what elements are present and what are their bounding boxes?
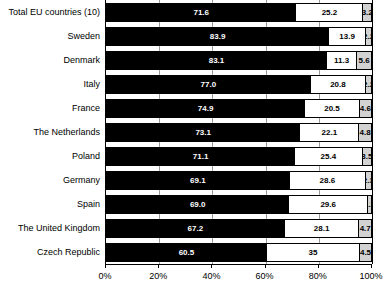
bar-segment-3: 4.5 <box>360 243 372 262</box>
bar-value-label: 13.9 <box>339 32 355 41</box>
bar-value-label: 71.1 <box>193 152 209 161</box>
axis-tick-label: 20% <box>138 271 178 281</box>
category-label: Total EU countries (10) <box>0 7 100 17</box>
bar-value-label: 1.5 <box>368 200 372 209</box>
bar-row: 77.020.82.2 <box>106 75 372 94</box>
bar-segment-2: 11.3 <box>327 51 357 70</box>
bar-value-label: 28.6 <box>320 176 336 185</box>
bar-value-label: 20.8 <box>330 80 346 89</box>
value-axis: 0%20%40%60%80%100% <box>105 264 373 292</box>
bar-row: 73.122.14.8 <box>106 123 372 142</box>
bar-value-label: 35 <box>309 248 318 257</box>
bar-value-label: 4.5 <box>360 248 371 257</box>
bar-row: 60.5354.5 <box>106 243 372 262</box>
bar-value-label: 83.9 <box>210 32 226 41</box>
bar-value-label: 22.1 <box>322 128 338 137</box>
category-label: France <box>0 103 100 113</box>
plot-area: 71.625.23.283.913.92.283.111.35.677.020.… <box>105 0 373 264</box>
bar-row: 69.128.62.3 <box>106 171 372 190</box>
bar-value-label: 20.5 <box>324 104 340 113</box>
bar-value-label: 2.2 <box>366 80 372 89</box>
bar-segment-1: 73.1 <box>106 123 300 142</box>
bar-value-label: 69.0 <box>190 200 206 209</box>
axis-tick-label: 40% <box>191 271 231 281</box>
bar-segment-3: 2.2 <box>366 75 372 94</box>
bar-value-label: 25.4 <box>321 152 337 161</box>
bar-segment-2: 28.6 <box>290 171 366 190</box>
category-label: Germany <box>0 175 100 185</box>
axis-tick-label: 60% <box>245 271 285 281</box>
bar-value-label: 69.1 <box>190 176 206 185</box>
bar-value-label: 73.1 <box>195 128 211 137</box>
bar-value-label: 25.2 <box>322 8 338 17</box>
bar-segment-1: 69.0 <box>106 195 289 214</box>
category-label: Italy <box>0 79 100 89</box>
bar-segment-1: 67.2 <box>106 219 285 238</box>
bar-segment-1: 83.9 <box>106 27 329 46</box>
bar-value-label: 2.2 <box>366 32 372 41</box>
category-label: Spain <box>0 199 100 209</box>
bar-value-label: 77.0 <box>201 80 217 89</box>
bar-segment-3: 4.6 <box>360 99 372 118</box>
bar-value-label: 4.6 <box>360 104 371 113</box>
bar-segment-1: 69.1 <box>106 171 290 190</box>
bar-segment-2: 25.2 <box>296 3 363 22</box>
bar-row: 71.125.43.5 <box>106 147 372 166</box>
axis-tick <box>211 264 212 268</box>
bar-value-label: 71.6 <box>193 8 209 17</box>
axis-line <box>105 264 372 265</box>
bar-value-label: 60.5 <box>179 248 195 257</box>
bar-value-label: 29.6 <box>320 200 336 209</box>
bar-segment-2: 35 <box>267 243 360 262</box>
bar-segment-1: 71.6 <box>106 3 296 22</box>
bar-segment-2: 29.6 <box>289 195 368 214</box>
bar-value-label: 4.7 <box>360 224 371 233</box>
bar-value-label: 4.8 <box>360 128 371 137</box>
axis-tick-label: 80% <box>298 271 338 281</box>
axis-tick <box>318 264 319 268</box>
bar-segment-2: 22.1 <box>300 123 359 142</box>
bar-value-label: 83.1 <box>209 56 225 65</box>
bar-row: 67.228.14.7 <box>106 219 372 238</box>
axis-tick-label: 100% <box>351 271 387 281</box>
category-label: The Netherlands <box>0 127 100 137</box>
bar-row: 69.029.61.5 <box>106 195 372 214</box>
bar-segment-3: 2.2 <box>366 27 372 46</box>
bar-segment-3: 3.2 <box>363 3 372 22</box>
bar-segment-3: 1.5 <box>368 195 372 214</box>
bar-row: 83.111.35.6 <box>106 51 372 70</box>
bar-segment-1: 60.5 <box>106 243 267 262</box>
axis-tick <box>105 264 106 268</box>
category-label: The United Kingdom <box>0 223 100 233</box>
axis-tick <box>158 264 159 268</box>
bar-segment-2: 20.5 <box>305 99 360 118</box>
axis-tick <box>265 264 266 268</box>
bar-value-label: 2.3 <box>366 176 372 185</box>
bar-segment-2: 20.8 <box>311 75 366 94</box>
category-label: Denmark <box>0 55 100 65</box>
bar-value-label: 28.1 <box>314 224 330 233</box>
bar-value-label: 3.5 <box>363 152 372 161</box>
bar-segment-1: 74.9 <box>106 99 305 118</box>
category-label: Czech Republic <box>0 247 100 257</box>
bar-row: 74.920.54.6 <box>106 99 372 118</box>
axis-tick <box>371 264 372 268</box>
category-label: Poland <box>0 151 100 161</box>
bar-segment-2: 28.1 <box>285 219 360 238</box>
bar-value-label: 5.6 <box>358 56 369 65</box>
bar-segment-3: 2.3 <box>366 171 372 190</box>
bar-segment-1: 77.0 <box>106 75 311 94</box>
bar-value-label: 3.2 <box>363 8 372 17</box>
bar-value-label: 74.9 <box>198 104 214 113</box>
bar-segment-2: 13.9 <box>329 27 366 46</box>
category-label: Sweden <box>0 31 100 41</box>
bar-row: 83.913.92.2 <box>106 27 372 46</box>
bar-value-label: 67.2 <box>188 224 204 233</box>
bar-value-label: 11.3 <box>334 56 349 65</box>
category-axis: Total EU countries (10)SwedenDenmarkItal… <box>0 0 104 264</box>
bar-segment-1: 83.1 <box>106 51 327 70</box>
bar-segment-3: 5.6 <box>357 51 372 70</box>
bar-row: 71.625.23.2 <box>106 3 372 22</box>
bar-segment-1: 71.1 <box>106 147 295 166</box>
